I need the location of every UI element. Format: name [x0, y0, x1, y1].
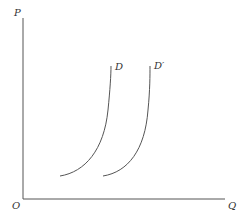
- y-axis-label: P: [14, 8, 21, 18]
- demand-curve-d: [60, 66, 111, 176]
- curve-label-d: D: [115, 62, 123, 72]
- diagram-canvas: [0, 0, 242, 219]
- demand-shift-diagram: P O Q D D′: [0, 0, 242, 219]
- origin-label: O: [12, 201, 20, 211]
- x-axis-label: Q: [228, 201, 236, 211]
- curve-label-d-prime: D′: [154, 61, 164, 71]
